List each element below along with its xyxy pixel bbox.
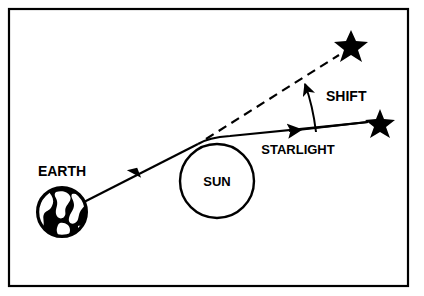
sun-label: SUN: [203, 174, 230, 189]
shift-label: SHIFT: [326, 88, 367, 104]
earth-continents: [30, 188, 86, 237]
starlight-label: STARLIGHT: [261, 142, 334, 157]
shift-angle-arc: [305, 84, 316, 132]
diagram-canvas: SUN EARTH SHIFT STARLIGHT: [0, 0, 424, 296]
light-deflection-diagram: SUN EARTH SHIFT STARLIGHT: [0, 0, 424, 296]
earth-label: EARTH: [38, 163, 86, 179]
star-true-position: [365, 109, 395, 138]
earth-globe: [30, 187, 87, 237]
starlight-incoming-segment: [198, 122, 368, 144]
star-apparent-position: [334, 30, 368, 62]
